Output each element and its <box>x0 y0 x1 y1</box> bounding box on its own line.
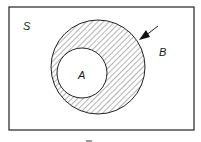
venn-diagram: S B A <box>0 0 201 142</box>
universe-label: S <box>23 20 31 32</box>
set-b-label: B <box>159 46 166 58</box>
set-a-label: A <box>77 69 85 81</box>
